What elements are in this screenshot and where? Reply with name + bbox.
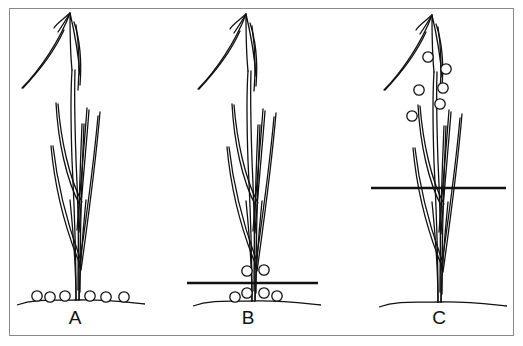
- leaf-stroke: [58, 104, 82, 202]
- panel-label-b: B: [233, 307, 263, 329]
- leaf-stroke: [234, 105, 258, 203]
- pellet-circle: [441, 64, 451, 74]
- pellet-circle: [119, 292, 129, 302]
- grass-plant: [198, 14, 276, 301]
- grass-plant: [22, 13, 100, 300]
- pellet-circle: [85, 291, 95, 301]
- panel-label-c: C: [424, 307, 454, 329]
- pellet-circle: [60, 291, 70, 301]
- pellet-circle: [438, 83, 448, 93]
- diagram-canvas: [0, 0, 523, 346]
- pellet-circle: [230, 292, 240, 302]
- pellet-circle: [45, 292, 55, 302]
- pellet-circle: [272, 291, 282, 301]
- panel-label-a: A: [60, 307, 90, 329]
- pellet-circle: [259, 265, 269, 275]
- pellet-circle: [407, 111, 417, 121]
- pellet-circle: [32, 291, 42, 301]
- pellet-circle: [242, 288, 252, 298]
- ground-line: [193, 301, 321, 306]
- pellet-circle: [101, 292, 111, 302]
- pellet-circle: [435, 99, 445, 109]
- pellet-circle: [259, 288, 269, 298]
- pellet-circle: [242, 266, 252, 276]
- pellet-circle: [414, 85, 424, 95]
- pellet-circle: [423, 52, 433, 62]
